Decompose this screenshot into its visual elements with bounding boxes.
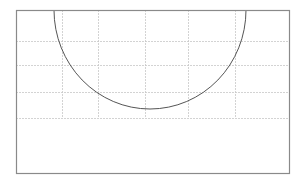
semicircle-arc bbox=[54, 10, 246, 109]
diagram-canvas bbox=[0, 0, 301, 182]
grid-lines bbox=[16, 10, 289, 119]
